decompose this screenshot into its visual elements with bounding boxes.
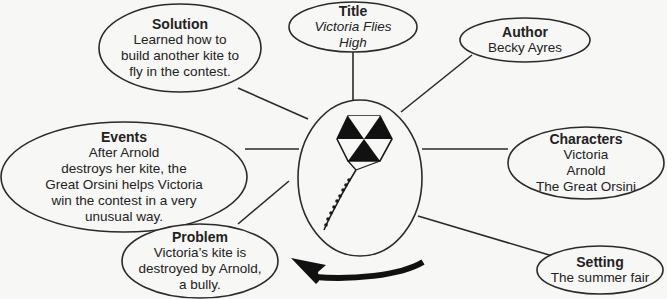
connector-setting bbox=[418, 216, 556, 257]
events-value: After Arnold destroys her kite, the Grea… bbox=[45, 145, 202, 225]
connector-author bbox=[401, 55, 472, 112]
connector-solution bbox=[238, 88, 308, 119]
setting-value: The summer fair bbox=[551, 270, 649, 286]
solution-node: Solution Learned how to build another ki… bbox=[99, 6, 261, 90]
author-heading: Author bbox=[502, 24, 548, 40]
characters-value: Victoria Arnold The Great Orsini bbox=[536, 147, 636, 195]
curved-arrow-icon bbox=[291, 258, 423, 284]
events-heading: Events bbox=[101, 129, 147, 145]
setting-node: Setting The summer fair bbox=[537, 250, 663, 290]
problem-value: Victoria’s kite is destroyed by Arnold, … bbox=[138, 245, 261, 293]
characters-heading: Characters bbox=[549, 131, 622, 147]
setting-heading: Setting bbox=[576, 254, 623, 270]
characters-node: Characters Victoria Arnold The Great Ors… bbox=[508, 127, 664, 199]
title-heading: Title bbox=[339, 3, 368, 19]
story-map-diagram: Title Victoria Flies High Author Becky A… bbox=[0, 0, 667, 299]
problem-heading: Problem bbox=[172, 229, 228, 245]
solution-heading: Solution bbox=[152, 16, 208, 32]
author-node: Author Becky Ayres bbox=[460, 20, 590, 60]
author-value: Becky Ayres bbox=[488, 40, 562, 56]
events-node: Events After Arnold destroys her kite, t… bbox=[2, 122, 246, 232]
title-value: Victoria Flies High bbox=[314, 19, 391, 51]
title-node: Title Victoria Flies High bbox=[289, 3, 417, 51]
problem-node: Problem Victoria’s kite is destroyed by … bbox=[122, 224, 278, 298]
solution-value: Learned how to build another kite to fly… bbox=[121, 32, 239, 80]
